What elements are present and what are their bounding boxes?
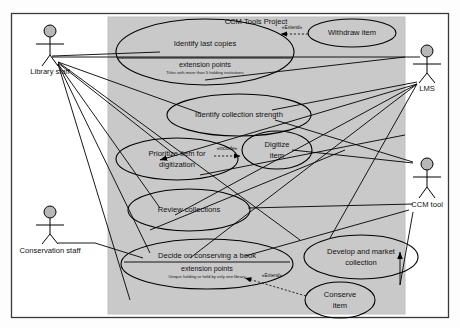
use-case-label-line2: item bbox=[333, 301, 347, 310]
actor-head bbox=[421, 158, 433, 170]
use-case-label: Identify last copies bbox=[174, 39, 237, 48]
actor-label: Library staff bbox=[30, 67, 70, 76]
actor-label: CCM tool bbox=[411, 200, 443, 209]
actor-head bbox=[44, 25, 56, 37]
use-case-label: Identify collection strength bbox=[195, 110, 283, 119]
use-case-label-line1: Develop and market bbox=[327, 247, 396, 256]
extension-points-detail: Unique holding or held by only one libra… bbox=[168, 274, 246, 279]
use-case-label: Review collections bbox=[158, 205, 221, 214]
diagram-canvas: CCM Tools Project bbox=[0, 0, 460, 328]
use-case-label-line1: Digitize bbox=[265, 140, 290, 149]
use-case-label-line2: collection bbox=[345, 258, 377, 267]
actor-label: LMS bbox=[419, 84, 435, 93]
stereotype-extend-conserve: «Extend» bbox=[262, 273, 283, 278]
actor-head bbox=[421, 45, 433, 57]
stereotype-extend-withdraw: «Extend» bbox=[282, 25, 303, 30]
use-case-label: Decide on conserving a book bbox=[158, 251, 256, 260]
extension-points-detail: Titles with more than 5 holding institut… bbox=[166, 70, 244, 75]
stereotype-include-digitize: «include» bbox=[217, 146, 238, 151]
use-case-label-line2: digitization bbox=[159, 160, 195, 169]
extension-points-title: extension points bbox=[179, 60, 231, 69]
actor-head bbox=[44, 206, 56, 218]
extension-points-title: extension points bbox=[181, 264, 233, 273]
use-case-label-line1: Prioritize item for bbox=[149, 149, 206, 158]
use-case-label: Withdraw item bbox=[328, 28, 376, 37]
actor-label: Conservation staff bbox=[19, 246, 81, 255]
use-case-label-line2: item bbox=[270, 151, 284, 160]
use-case-label-line1: Conserve bbox=[324, 290, 357, 299]
use-case-diagram: CCM Tools Project bbox=[0, 0, 460, 328]
